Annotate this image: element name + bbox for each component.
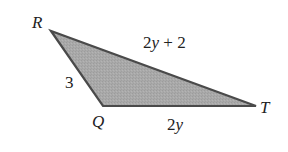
side-label-qt: 2y bbox=[167, 115, 184, 134]
vertex-label-t: T bbox=[260, 98, 271, 117]
vertex-label-r: R bbox=[31, 13, 43, 32]
triangle-diagram: R Q T 3 2y + 2 2y bbox=[0, 0, 288, 152]
vertex-label-q: Q bbox=[92, 112, 104, 131]
side-label-rt: 2y + 2 bbox=[143, 33, 186, 52]
side-label-rq: 3 bbox=[65, 73, 74, 92]
